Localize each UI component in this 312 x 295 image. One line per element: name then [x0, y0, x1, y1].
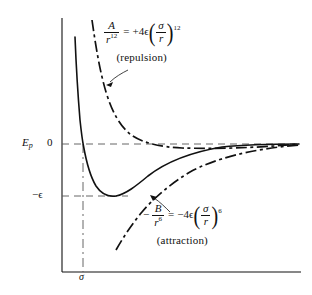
repulsion-annotation: Ar12=+4ϵ(σr)12 (repulsion): [103, 20, 180, 63]
attraction-inner-numerator: σ: [201, 203, 210, 216]
attraction-annotation: −Br6=−4ϵ(σr)6 (attraction): [143, 203, 222, 246]
repulsion-inner-fraction: σr: [156, 20, 165, 44]
attraction-denominator-exponent: 6: [159, 215, 163, 223]
attraction-lead-sign: −: [143, 208, 149, 220]
y-tick-label-minus-epsilon: −ϵ: [32, 189, 43, 200]
attraction-inner-fraction: σr: [201, 203, 210, 227]
y-tick-label-zero: 0: [47, 137, 53, 148]
repulsion-fraction: Ar12: [104, 20, 119, 45]
repulsion-leader-arrow: [106, 82, 113, 87]
attraction-equals: =: [168, 208, 174, 220]
y-axis-label: Ep: [22, 137, 33, 150]
attraction-paren-close: ): [211, 204, 218, 228]
repulsion-leader-line: [110, 70, 128, 82]
repulsion-outer-exponent: 12: [173, 24, 180, 32]
lennard-jones-figure: Ep 0 −ϵ σ Ar12=+4ϵ(σr)12 (repulsion) −Br…: [0, 0, 312, 295]
x-tick-label-sigma: σ: [79, 272, 84, 282]
attraction-paren-group: (σr)6: [193, 203, 221, 227]
attraction-coefficient: −4ϵ: [177, 208, 193, 220]
attraction-equation: −Br6=−4ϵ(σr)6: [143, 203, 222, 228]
y-axis-label-text: E: [22, 136, 29, 148]
repulsion-paren-group: (σr)12: [149, 20, 181, 44]
attraction-leader-arrow: [150, 195, 157, 201]
attraction-fraction: Br6: [152, 203, 164, 228]
attraction-paren-open: (: [193, 204, 200, 228]
repulsion-equals: =: [123, 25, 129, 37]
repulsion-inner-denominator: r: [156, 33, 165, 45]
repulsion-inner-numerator: σ: [156, 20, 165, 33]
repulsion-leader: [106, 70, 128, 87]
repulsion-denominator-exponent: 12: [110, 32, 117, 40]
attraction-caption: (attraction): [143, 234, 222, 246]
attraction-outer-exponent: 6: [218, 207, 222, 215]
attraction-denominator: r6: [152, 216, 164, 228]
repulsion-caption: (repulsion): [103, 51, 180, 63]
repulsion-paren-open: (: [149, 21, 156, 45]
repulsion-equation: Ar12=+4ϵ(σr)12: [103, 20, 180, 45]
y-axis-label-subscript: p: [29, 141, 33, 150]
repulsion-paren-close: ): [167, 21, 174, 45]
attraction-inner-denominator: r: [201, 216, 210, 228]
repulsion-coefficient: +4ϵ: [133, 25, 149, 37]
repulsion-denominator: r12: [104, 33, 119, 45]
